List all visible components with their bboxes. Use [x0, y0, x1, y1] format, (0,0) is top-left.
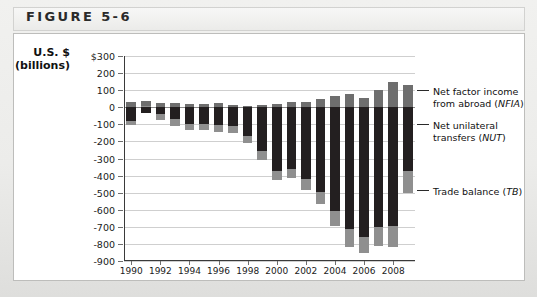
bar-segment-nut-2007: [374, 227, 384, 247]
bar-segment-tb-2007: [374, 107, 384, 227]
bar-group-2000: [272, 56, 282, 261]
bar-segment-nfia-2002: [301, 102, 311, 107]
figure-label: FIGURE 5-6: [26, 9, 132, 24]
bar-segment-nfia-2000: [272, 104, 282, 108]
bar-segment-nut-1998: [243, 136, 253, 144]
bar-segment-tb-2006: [359, 107, 369, 237]
legend-item-nfia[interactable]: Net factor incomefrom abroad (NFIA): [433, 86, 524, 109]
gridline--400: [124, 176, 415, 177]
bar-group-2005: [345, 56, 355, 261]
x-tick-label-2000: 2000: [265, 266, 288, 276]
bar-group-1992: [156, 56, 166, 261]
legend-label-nut-line1: Net unilateral: [433, 120, 506, 132]
gridline--100: [124, 124, 415, 125]
bar-group-2002: [301, 56, 311, 261]
y-tick-0: [118, 107, 123, 108]
x-tick-2004: [335, 261, 336, 265]
gridline--600: [124, 210, 415, 211]
bar-group-1998: [243, 56, 253, 261]
x-tick-1992: [160, 261, 161, 265]
bar-segment-tb-1993: [170, 107, 180, 119]
gridline--500: [124, 193, 415, 194]
x-tick-label-2002: 2002: [294, 266, 317, 276]
y-tick-label--300: -300: [93, 153, 115, 164]
bar-segment-nut-2005: [345, 229, 355, 247]
bar-segment-nfia-1991: [141, 101, 151, 106]
bar-segment-tb-1996: [214, 107, 224, 125]
y-axis-title-line1: U.S. $: [0, 46, 70, 59]
y-axis-title: U.S. $ (billions): [0, 46, 70, 72]
legend-label-nfia-line2: from abroad (NFIA): [433, 98, 524, 110]
y-tick-label-300: $300: [91, 51, 115, 62]
gridline--200: [124, 141, 415, 142]
legend-item-tb[interactable]: Trade balance (TB): [433, 186, 522, 198]
bar-group-1993: [170, 56, 180, 261]
y-tick-label--100: -100: [93, 119, 115, 130]
bar-segment-nfia-1992: [156, 103, 166, 107]
y-tick-label--700: -700: [93, 221, 115, 232]
bar-segment-nfia-1995: [199, 104, 209, 108]
bar-segment-nfia-1996: [214, 103, 224, 107]
bar-segment-nut-2001: [287, 169, 297, 178]
y-tick--300: [118, 159, 123, 160]
bar-segment-tb-2004: [330, 107, 340, 211]
bar-segment-tb-2005: [345, 107, 355, 229]
bar-segment-nfia-2009: [403, 85, 413, 107]
bar-group-2006: [359, 56, 369, 261]
bar-group-1999: [257, 56, 267, 261]
bar-segment-tb-2009: [403, 107, 413, 171]
legend-leader-tb: [417, 190, 429, 191]
plot-area: $3002001000-100-200-300-400-500-600-700-…: [124, 56, 415, 261]
x-tick-1996: [219, 261, 220, 265]
bar-segment-nut-2004: [330, 211, 340, 226]
bar-segment-tb-2002: [301, 107, 311, 178]
bar-group-2004: [330, 56, 340, 261]
bar-segment-nut-2006: [359, 237, 369, 253]
y-tick-label-200: 200: [97, 68, 115, 79]
x-tick-label-1996: 1996: [207, 266, 230, 276]
bar-segment-nut-1992: [156, 114, 166, 120]
bar-segment-nut-2009: [403, 171, 413, 192]
gridline-100: [124, 90, 415, 91]
bar-segment-nfia-1997: [228, 105, 238, 107]
bar-segment-nfia-1990: [126, 102, 136, 107]
bar-segment-nut-2003: [316, 192, 326, 204]
bar-segment-tb-2001: [287, 107, 297, 169]
gridline--300: [124, 159, 415, 160]
bar-segment-tb-1998: [243, 107, 253, 135]
bar-group-1991: [141, 56, 151, 261]
bar-segment-tb-1999: [257, 107, 267, 151]
bar-group-2001: [287, 56, 297, 261]
bar-segment-nut-2002: [301, 179, 311, 190]
y-tick-label--500: -500: [93, 187, 115, 198]
y-tick-label--900: -900: [93, 256, 115, 267]
bar-segment-nut-1996: [214, 125, 224, 132]
x-tick-label-1998: 1998: [236, 266, 259, 276]
x-tick-1994: [189, 261, 190, 265]
bar-group-2008: [388, 56, 398, 261]
x-tick-2006: [364, 261, 365, 265]
x-tick-label-2004: 2004: [324, 266, 347, 276]
y-tick--500: [118, 193, 123, 194]
bar-segment-tb-2000: [272, 107, 282, 171]
bar-group-1996: [214, 56, 224, 261]
bar-segment-nfia-1998: [243, 106, 253, 108]
y-tick-100: [118, 90, 123, 91]
bar-segment-nfia-2003: [316, 99, 326, 107]
bar-segment-nfia-2005: [345, 94, 355, 107]
bar-group-1995: [199, 56, 209, 261]
y-axis-line: [124, 56, 125, 261]
bar-segment-nfia-1994: [185, 104, 195, 107]
y-tick-label-100: 100: [97, 85, 115, 96]
bar-segment-nut-1993: [170, 119, 180, 125]
legend-label-nfia-line1: Net factor income: [433, 86, 524, 98]
y-tick--100: [118, 124, 123, 125]
bar-segment-tb-2003: [316, 107, 326, 191]
bar-segment-tb-1990: [126, 107, 136, 121]
y-axis-title-line2: (billions): [0, 59, 70, 72]
bar-segment-tb-1991: [141, 107, 151, 112]
legend-item-nut[interactable]: Net unilateraltransfers (NUT): [433, 120, 506, 143]
x-tick-2002: [306, 261, 307, 265]
y-tick-label-0: 0: [109, 102, 115, 113]
bar-segment-tb-2008: [388, 107, 398, 226]
